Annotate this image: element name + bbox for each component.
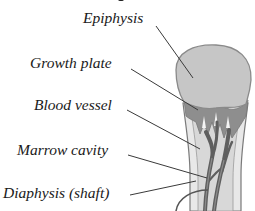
- leader-diaphysis: [130, 181, 196, 195]
- label-epiphysis: Epiphysis: [83, 10, 143, 26]
- label-diaphysis: Diaphysis (shaft): [3, 185, 109, 201]
- epiphysis-head: [176, 45, 251, 109]
- label-growth-plate: Growth plate: [30, 55, 112, 71]
- label-blood-vessel: Blood vessel: [34, 97, 112, 113]
- label-marrow-cavity: Marrow cavity: [17, 142, 108, 158]
